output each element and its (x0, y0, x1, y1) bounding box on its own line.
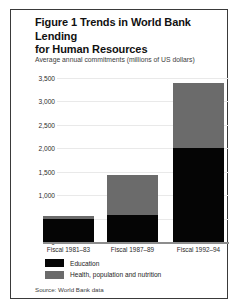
chart-plot-area: 05001,0001,5002,0002,5003,0003,500 Fisca… (11, 10, 229, 300)
bar-segment-education[interactable] (43, 219, 94, 242)
y-tick-label: 1,000 (19, 192, 55, 199)
figure-frame: Figure 1 Trends in World Bank Lending fo… (10, 9, 228, 299)
bar-segment-education[interactable] (173, 148, 224, 242)
legend-item[interactable]: Education (45, 259, 161, 267)
y-tick-label: 3,000 (19, 98, 55, 105)
x-axis-label: Fiscal 1987–89 (100, 246, 165, 253)
y-tick-label: 3,500 (19, 75, 55, 82)
legend-item[interactable]: Health, population and nutrition (45, 271, 161, 279)
x-axis-label: Fiscal 1992–94 (166, 246, 231, 253)
x-axis-label: Fiscal 1981–83 (36, 246, 101, 253)
y-tick-label: 2,000 (19, 145, 55, 152)
source-note: Source: World Bank data (35, 286, 104, 293)
bar-group[interactable] (107, 175, 158, 242)
bar-segment-health[interactable] (107, 175, 158, 215)
legend-label: Education (70, 260, 99, 267)
bar-segment-health[interactable] (173, 83, 224, 149)
gridline (57, 78, 229, 79)
bar-segment-education[interactable] (107, 215, 158, 242)
y-tick-label: 1,500 (19, 168, 55, 175)
legend-label: Health, population and nutrition (70, 271, 161, 278)
bar-group[interactable] (43, 216, 94, 242)
y-tick-label: 2,500 (19, 121, 55, 128)
legend-swatch (45, 259, 64, 267)
chart-legend: EducationHealth, population and nutritio… (45, 259, 161, 282)
bar-group[interactable] (173, 83, 224, 242)
legend-swatch (45, 271, 64, 279)
x-axis-baseline (43, 242, 229, 244)
